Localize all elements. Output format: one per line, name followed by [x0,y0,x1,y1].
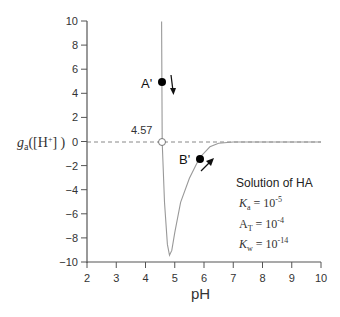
y-tick-label: 10 [66,15,78,27]
chart: 1086420−2−4−6−8−10 2345678910 4.57 A' B'… [0,0,340,317]
point-b [196,155,204,163]
x-tick-label: 2 [84,272,90,284]
legend-kw: Kw = 10-14 [238,236,288,253]
equilibrium-label: 4.57 [131,124,152,136]
y-tick-label: 2 [72,111,78,123]
legend-ka: Ka = 10-5 [238,195,282,212]
x-ticks: 2345678910 [84,262,327,284]
legend-params: Ka = 10-5 AT = 10-4 Kw = 10-14 [238,195,288,253]
x-tick-label: 8 [259,272,265,284]
x-tick-label: 5 [172,272,178,284]
equilibrium-marker [159,139,166,146]
y-tick-label: −10 [59,256,78,268]
y-tick-label: 4 [72,87,78,99]
y-tick-label: 6 [72,63,78,75]
x-tick-label: 3 [113,272,119,284]
arrow-down-head-icon [170,88,176,95]
y-tick-label: 0 [72,136,78,148]
x-tick-label: 4 [142,272,148,284]
x-axis-label: pH [191,285,210,302]
legend-title: Solution of HA [236,176,313,190]
x-tick-label: 6 [201,272,207,284]
legend-at: AT = 10-4 [239,216,284,233]
y-tick-label: −8 [65,232,78,244]
y-axis-label: ga([H+] ) [17,135,66,152]
point-a [158,78,166,86]
y-tick-label: −2 [65,160,78,172]
x-tick-label: 7 [230,272,236,284]
y-tick-label: 8 [72,39,78,51]
point-b-label: B' [179,152,190,167]
y-tick-label: −6 [65,208,78,220]
point-a-label: A' [141,76,152,91]
y-tick-label: −4 [65,184,78,196]
x-tick-label: 10 [315,272,327,284]
x-tick-label: 9 [289,272,295,284]
